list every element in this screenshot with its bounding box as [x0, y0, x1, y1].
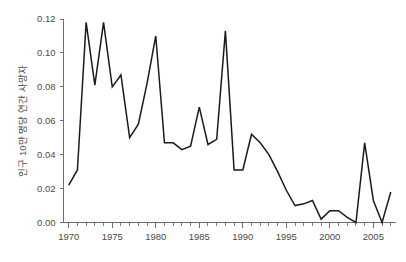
y-tick-label: 0.06 [37, 115, 56, 126]
y-tick-label: 0.04 [37, 149, 56, 160]
y-axis-title: 인구 10만 명당 연간 사망자 [17, 65, 28, 176]
x-tick-label: 2005 [363, 231, 384, 242]
x-tick-label: 2000 [319, 231, 340, 242]
x-tick-label: 1975 [102, 231, 123, 242]
x-tick-label: 1980 [145, 231, 166, 242]
y-tick-label: 0.02 [37, 183, 56, 194]
line-chart: 0.000.020.040.060.080.100.12 인구 10만 명당 연… [0, 0, 406, 262]
x-tick-label: 1995 [276, 231, 297, 242]
chart-container: 0.000.020.040.060.080.100.12 인구 10만 명당 연… [0, 0, 406, 262]
y-tick-label: 0.00 [37, 217, 56, 228]
x-tick-label: 1970 [58, 231, 79, 242]
x-tick-label: 1985 [189, 231, 210, 242]
y-tick-label: 0.10 [37, 47, 56, 58]
x-tick-label: 1990 [232, 231, 253, 242]
y-tick-label: 0.08 [37, 81, 56, 92]
y-tick-label: 0.12 [37, 13, 56, 24]
